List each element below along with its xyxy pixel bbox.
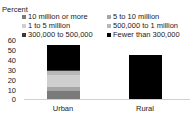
x-axis-line bbox=[24, 99, 190, 100]
legend-item-under-300k: Fewer than 300,000 bbox=[107, 30, 180, 39]
legend-label: 10 million or more bbox=[28, 12, 88, 21]
legend-swatch bbox=[107, 15, 111, 19]
legend-item-500k-1m: 500,000 to 1 million bbox=[107, 21, 180, 30]
legend-label: Fewer than 300,000 bbox=[113, 30, 180, 39]
legend-swatch bbox=[107, 33, 111, 37]
legend-label: 1 to 5 million bbox=[28, 21, 70, 30]
bar-urban bbox=[47, 45, 80, 99]
y-tick: 0 bbox=[2, 95, 16, 104]
y-tick: 60 bbox=[2, 36, 16, 45]
legend-swatch bbox=[107, 24, 111, 28]
segment-10m-plus bbox=[47, 91, 80, 99]
legend-item-5-10m: 5 to 10 million bbox=[107, 12, 180, 21]
y-tick: 30 bbox=[2, 66, 16, 75]
legend-label: 500,000 to 1 million bbox=[113, 21, 178, 30]
legend-swatch bbox=[22, 15, 26, 19]
segment-under-300k bbox=[129, 55, 162, 99]
y-tick: 40 bbox=[2, 56, 16, 65]
segment-under-300k bbox=[47, 45, 80, 70]
legend-item-10m-plus: 10 million or more bbox=[22, 12, 93, 21]
y-tick: 50 bbox=[2, 46, 16, 55]
bar-rural bbox=[129, 55, 162, 99]
legend-label: 5 to 10 million bbox=[113, 12, 159, 21]
legend-right: 5 to 10 million 500,000 to 1 million Few… bbox=[107, 12, 180, 39]
y-tick: 20 bbox=[2, 76, 16, 85]
y-tick: 10 bbox=[2, 86, 16, 95]
legend-swatch bbox=[22, 33, 26, 37]
legend-item-1-5m: 1 to 5 million bbox=[22, 21, 93, 30]
x-label-rural: Rural bbox=[125, 104, 165, 113]
legend-item-300k-500k: 300,000 to 500,000 bbox=[22, 30, 93, 39]
x-label-urban: Urban bbox=[43, 104, 83, 113]
legend-label: 300,000 to 500,000 bbox=[28, 30, 93, 39]
segment-1-5m bbox=[47, 75, 80, 87]
legend-swatch bbox=[22, 24, 26, 28]
legend-left: 10 million or more 1 to 5 million 300,00… bbox=[22, 12, 93, 39]
